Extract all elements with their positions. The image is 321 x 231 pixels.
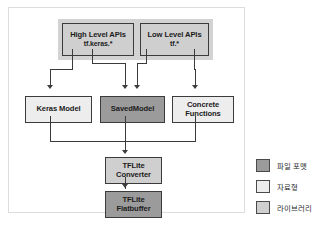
legend-label-data-type: 자료형: [277, 181, 298, 192]
legend-swatch-data-type: [256, 180, 270, 193]
legend-swatch-file-format: [256, 159, 270, 172]
legend-item-file-format: 파일 포맷: [256, 157, 318, 173]
node-high-level-apis-line2: tf.keras.*: [84, 40, 113, 48]
edge-saved-to-converter: [125, 116, 126, 150]
edge-concrete-to-bus: [195, 116, 196, 141]
node-keras-model[interactable]: Keras Model: [25, 96, 92, 123]
node-tflite-converter-line2: Converter: [116, 171, 151, 180]
edge-low-to-saved-span: [137, 63, 147, 64]
arrowhead-saved-model-right: [134, 85, 140, 89]
node-high-level-apis-line1: High Level APIs: [70, 31, 126, 40]
arrowhead-keras-model: [47, 85, 53, 89]
arrowhead-saved-model-left: [122, 85, 128, 89]
node-saved-model[interactable]: SavedModel: [100, 96, 165, 123]
legend-item-library: 라이브러리: [256, 199, 318, 215]
legend-label-library: 라이브러리: [277, 202, 312, 213]
edge-keras-to-bus: [50, 116, 51, 141]
node-tflite-flatbuffer[interactable]: TFLite Flatbuffer: [105, 191, 162, 218]
legend-item-data-type: 자료형: [256, 178, 318, 194]
arrowhead-tflite-converter: [122, 150, 128, 154]
edge-high-to-saved-span: [92, 63, 125, 64]
node-saved-model-line1: SavedModel: [111, 105, 154, 114]
edge-high-to-keras-drop: [50, 69, 51, 85]
node-keras-model-line1: Keras Model: [36, 105, 80, 114]
edge-bus-right: [125, 141, 196, 142]
node-low-level-apis[interactable]: Low Level APIs tf.*: [140, 23, 209, 56]
arrowhead-concrete-functions: [192, 85, 198, 89]
node-concrete-functions[interactable]: Concrete Functions: [172, 96, 234, 123]
diagram-canvas: High Level APIs tf.keras.* Low Level API…: [0, 0, 321, 231]
node-low-level-apis-line1: Low Level APIs: [147, 31, 201, 40]
edge-high-to-keras-stem: [72, 49, 73, 69]
edge-low-to-saved-drop: [137, 63, 138, 85]
node-tflite-flatbuffer-line2: Flatbuffer: [116, 205, 150, 214]
diagram-panel: High Level APIs tf.keras.* Low Level API…: [8, 7, 245, 213]
legend: 파일 포맷 자료형 라이브러리: [256, 157, 318, 220]
edge-low-to-saved-stem: [146, 49, 147, 63]
arrowhead-tflite-flatbuffer: [122, 184, 128, 188]
edge-high-to-keras-span: [50, 69, 73, 70]
edge-high-to-saved-stem: [92, 49, 93, 63]
node-concrete-functions-line2: Functions: [185, 110, 220, 119]
legend-label-file-format: 파일 포맷: [277, 160, 307, 171]
node-tflite-converter[interactable]: TFLite Converter: [105, 157, 162, 184]
edge-bus-left: [50, 141, 125, 142]
edge-low-to-concrete-drop: [195, 69, 196, 85]
legend-swatch-library: [256, 201, 270, 214]
edge-high-to-saved-drop: [125, 63, 126, 85]
node-low-level-apis-line2: tf.*: [170, 40, 179, 48]
edge-low-to-concrete-stem: [194, 49, 195, 69]
